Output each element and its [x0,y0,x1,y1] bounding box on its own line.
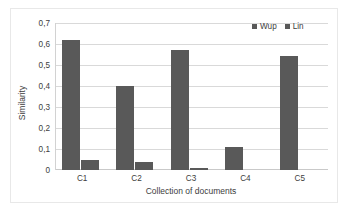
bar-group [110,23,164,170]
bar-chart-figure: Similarity 0,70,60,50,40,30,20,10 C1C2C3… [0,0,349,215]
bar-wup-c3 [171,50,189,170]
bar-group [219,23,273,170]
bar-group [56,23,110,170]
plot-area [55,23,328,170]
x-axis-tick-label: C3 [166,174,216,183]
bar-lin-c3 [190,168,208,170]
y-axis-tick-label: 0,4 [28,82,50,91]
legend-label: Lin [293,22,304,31]
y-axis-tick-label: 0,1 [28,145,50,154]
bar-lin-c1 [81,160,99,170]
x-axis-tick-label: C4 [220,174,270,183]
y-axis-tick-label: 0,7 [28,19,50,28]
bar-wup-c5 [280,56,298,170]
x-axis-tick-label: C2 [112,174,162,183]
x-axis-tick-label: C5 [275,174,325,183]
bar-wup-c1 [62,40,80,170]
legend-swatch-icon [285,24,290,29]
bar-group [274,23,328,170]
x-axis-tick-label: C1 [57,174,107,183]
y-axis-tick-label: 0,5 [28,61,50,70]
y-axis-tick-label: 0,2 [28,124,50,133]
legend-entry-lin: Lin [285,22,304,31]
bar-wup-c2 [116,86,134,170]
y-axis-tick-label: 0,6 [28,40,50,49]
y-axis-tick-label: 0,3 [28,103,50,112]
chart-legend: WupLin [252,20,304,32]
legend-label: Wup [260,22,277,31]
legend-entry-wup: Wup [252,22,277,31]
y-axis-tick-label: 0 [28,166,50,175]
x-axis-title: Collection of documents [55,186,327,196]
bar-wup-c4 [225,147,243,170]
bar-lin-c2 [135,162,153,170]
legend-swatch-icon [252,24,257,29]
bar-group [165,23,219,170]
y-axis-ticks: 0,70,60,50,40,30,20,10 [26,0,50,215]
